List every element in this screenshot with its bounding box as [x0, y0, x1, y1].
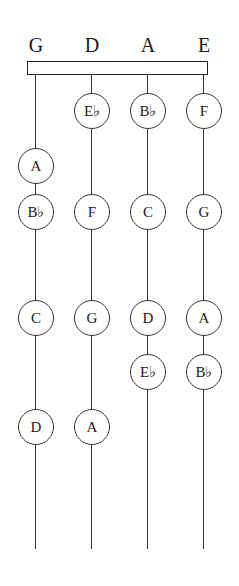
- string-label-g: G: [21, 34, 51, 56]
- note-g-4: D: [18, 409, 54, 445]
- note-a-4: E♭: [130, 354, 166, 390]
- note-e-2: G: [186, 194, 222, 230]
- note-g-1: A: [18, 148, 54, 184]
- note-a-1: B♭: [130, 93, 166, 129]
- nut-bar: [27, 61, 208, 75]
- note-a-2: C: [130, 194, 166, 230]
- fingering-diagram: G A B♭ C D D E♭ F G A A B♭ C D E♭ E F G …: [0, 0, 239, 586]
- note-e-1: F: [186, 93, 222, 129]
- note-d-2: F: [74, 194, 110, 230]
- string-label-d: D: [77, 34, 107, 56]
- string-label-a: A: [133, 34, 163, 56]
- note-d-1: E♭: [74, 93, 110, 129]
- string-label-e: E: [189, 34, 219, 56]
- note-d-4: A: [74, 409, 110, 445]
- note-a-3: D: [130, 300, 166, 336]
- note-d-3: G: [74, 300, 110, 336]
- note-g-3: C: [18, 300, 54, 336]
- note-e-3: A: [186, 300, 222, 336]
- note-g-2: B♭: [18, 194, 54, 230]
- note-e-4: B♭: [186, 354, 222, 390]
